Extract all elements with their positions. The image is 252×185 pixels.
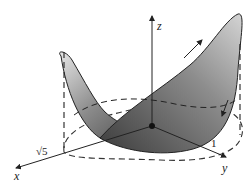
saddle-surface-figure: z x y √5 1 [0, 0, 252, 185]
surface-right-lobe [100, 14, 242, 153]
x-axis-label: x [14, 170, 19, 182]
y-axis-label: y [222, 162, 227, 174]
origin-point [149, 123, 155, 129]
z-axis-label: z [157, 20, 162, 32]
y-intercept-label: 1 [211, 138, 217, 149]
figure-canvas [0, 0, 252, 185]
x-intercept-label: √5 [36, 146, 48, 157]
